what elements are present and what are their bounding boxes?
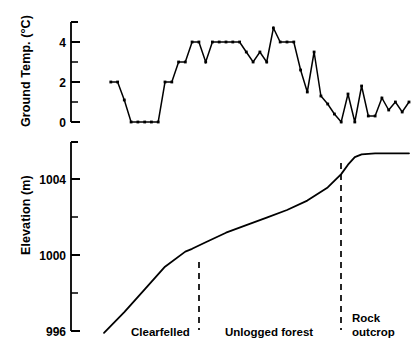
bottom-panel-tick-label-996: 996: [46, 325, 66, 339]
ground-temperature-markers: [109, 27, 410, 124]
data-point-marker: [170, 81, 173, 84]
bottom-panel-tick-label-1000: 1000: [39, 249, 66, 263]
data-point-marker: [137, 121, 140, 124]
data-point-marker: [333, 113, 336, 116]
data-point-marker: [272, 27, 275, 30]
data-point-marker: [265, 61, 268, 64]
top-panel-tick-label-2: 2: [59, 76, 66, 90]
data-point-marker: [326, 103, 329, 106]
data-point-marker: [177, 61, 180, 64]
data-point-marker: [245, 51, 248, 54]
data-point-marker: [231, 41, 234, 44]
data-point-marker: [109, 81, 112, 84]
data-point-marker: [259, 51, 262, 54]
data-point-marker: [340, 121, 343, 124]
top-panel-tick-label-4: 4: [59, 36, 66, 50]
top-panel-tick-label-0: 0: [59, 116, 66, 130]
data-point-marker: [387, 109, 390, 112]
data-point-marker: [286, 41, 289, 44]
bottom-panel-axis-spine: [71, 142, 78, 331]
data-point-marker: [143, 121, 146, 124]
bottom-panel: Elevation (m) 1004 1000 996 Clearfelled …: [19, 142, 409, 339]
data-point-marker: [130, 121, 133, 124]
bottom-panel-ylabel: Elevation (m): [19, 175, 33, 255]
data-point-marker: [198, 41, 201, 44]
data-point-marker: [238, 41, 241, 44]
elevation-profile-series: [104, 153, 409, 333]
data-point-marker: [123, 99, 126, 102]
top-panel-major-ticks: [71, 42, 80, 122]
zone-label-rock-outcrop-line1: Rockoutcrop: [352, 312, 395, 338]
bottom-panel-minor-ticks: [71, 142, 78, 293]
data-point-marker: [347, 93, 350, 96]
data-point-marker: [252, 61, 255, 64]
figure-svg: Ground Temp. (°C) 4 2 0 Elevation (m) 10…: [0, 0, 416, 350]
data-point-marker: [367, 115, 370, 118]
ground-temperature-series: [111, 28, 409, 122]
zone-label-clearfelled: Clearfelled: [131, 326, 190, 338]
data-point-marker: [184, 61, 187, 64]
data-point-marker: [381, 97, 384, 100]
data-point-marker: [204, 61, 207, 64]
data-point-marker: [353, 121, 356, 124]
data-point-marker: [408, 101, 411, 104]
top-panel: Ground Temp. (°C) 4 2 0: [19, 15, 410, 130]
data-point-marker: [150, 121, 153, 124]
data-point-marker: [116, 81, 119, 84]
data-point-marker: [299, 69, 302, 72]
data-point-marker: [292, 41, 295, 44]
data-point-marker: [394, 101, 397, 104]
data-point-marker: [164, 81, 167, 84]
zone-label-unlogged-forest: Unlogged forest: [225, 326, 313, 338]
data-point-marker: [279, 41, 282, 44]
data-point-marker: [211, 41, 214, 44]
data-point-marker: [313, 51, 316, 54]
data-point-marker: [218, 41, 221, 44]
top-panel-axis-spine: [71, 22, 78, 122]
bottom-panel-major-ticks: [71, 179, 80, 331]
top-panel-minor-ticks: [71, 22, 78, 102]
data-point-marker: [225, 41, 228, 44]
data-point-marker: [360, 85, 363, 88]
bottom-panel-tick-label-1004: 1004: [39, 173, 66, 187]
data-point-marker: [306, 91, 309, 94]
data-point-marker: [320, 95, 323, 98]
data-point-marker: [191, 41, 194, 44]
data-point-marker: [401, 111, 404, 114]
data-point-marker: [374, 115, 377, 118]
top-panel-ylabel: Ground Temp. (°C): [19, 15, 33, 127]
figure-panel: Ground Temp. (°C) 4 2 0 Elevation (m) 10…: [0, 0, 416, 350]
data-point-marker: [157, 121, 160, 124]
